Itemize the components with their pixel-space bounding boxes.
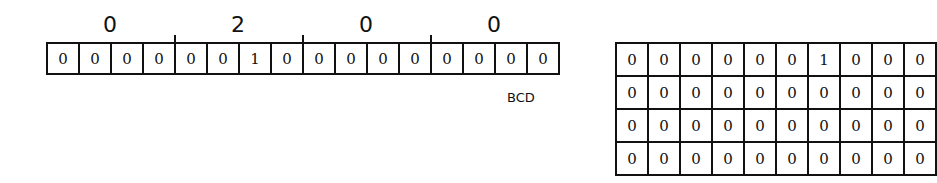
grid-cell: 0 [873, 143, 905, 176]
grid-cell: 1 [809, 44, 841, 77]
grid-cell: 0 [905, 77, 937, 110]
bit-cell: 0 [432, 44, 464, 73]
grid-cell: 0 [777, 44, 809, 77]
bcd-digit: 0 [302, 12, 430, 38]
grid-cell: 0 [905, 143, 937, 176]
grid-row: 0000000000 [617, 110, 937, 143]
bit-cell: 0 [272, 44, 304, 73]
grid-cell: 0 [681, 143, 713, 176]
grid-cell: 0 [777, 110, 809, 143]
bit-cell: 0 [208, 44, 240, 73]
bit-cell: 1 [240, 44, 272, 73]
grid-cell: 0 [745, 77, 777, 110]
grid-cell: 0 [841, 110, 873, 143]
bit-cell: 0 [336, 44, 368, 73]
bcd-digit-labels: 0 2 0 0 [46, 12, 558, 42]
grid-cell: 0 [809, 110, 841, 143]
grid-cell: 0 [873, 44, 905, 77]
bit-cell: 0 [496, 44, 528, 73]
grid-cell: 0 [681, 44, 713, 77]
bit-cell: 0 [464, 44, 496, 73]
bit-cell: 0 [48, 44, 80, 73]
bit-cell: 0 [304, 44, 336, 73]
grid-cell: 0 [617, 110, 649, 143]
grid-cell: 0 [617, 143, 649, 176]
grid-cell: 0 [841, 44, 873, 77]
bcd-digit: 2 [174, 12, 302, 38]
grid-cell: 0 [649, 77, 681, 110]
bcd-label: BCD [507, 90, 535, 105]
bit-cell: 0 [400, 44, 432, 73]
grid-cell: 0 [713, 110, 745, 143]
bcd-digit: 0 [430, 12, 558, 38]
grid-cell: 0 [873, 110, 905, 143]
grid-cell: 0 [681, 77, 713, 110]
bit-cell: 0 [176, 44, 208, 73]
bit-grid: 0000001000000000000000000000000000000000 [615, 42, 937, 176]
grid-cell: 0 [745, 143, 777, 176]
grid-cell: 0 [841, 77, 873, 110]
grid-row: 0000001000 [617, 44, 937, 77]
grid-cell: 0 [713, 44, 745, 77]
grid-cell: 0 [649, 110, 681, 143]
grid-cell: 0 [777, 77, 809, 110]
grid-cell: 0 [617, 44, 649, 77]
grid-cell: 0 [745, 44, 777, 77]
grid-cell: 0 [745, 110, 777, 143]
grid-cell: 0 [905, 110, 937, 143]
grid-row: 0000000000 [617, 143, 937, 176]
grid-cell: 0 [777, 143, 809, 176]
bcd-bit-strip: 0000001000000000 [46, 42, 560, 75]
grid-cell: 0 [681, 110, 713, 143]
grid-cell: 0 [649, 143, 681, 176]
grid-row: 0000000000 [617, 77, 937, 110]
bcd-digit: 0 [46, 12, 174, 38]
bit-cell: 0 [144, 44, 176, 73]
grid-cell: 0 [841, 143, 873, 176]
grid-cell: 0 [809, 77, 841, 110]
grid-cell: 0 [809, 143, 841, 176]
bit-cell: 0 [80, 44, 112, 73]
grid-cell: 0 [649, 44, 681, 77]
grid-cell: 0 [873, 77, 905, 110]
bit-cell: 0 [112, 44, 144, 73]
grid-cell: 0 [713, 77, 745, 110]
grid-cell: 0 [617, 77, 649, 110]
grid-cell: 0 [905, 44, 937, 77]
bit-cell: 0 [368, 44, 400, 73]
grid-cell: 0 [713, 143, 745, 176]
bit-cell: 0 [528, 44, 558, 73]
